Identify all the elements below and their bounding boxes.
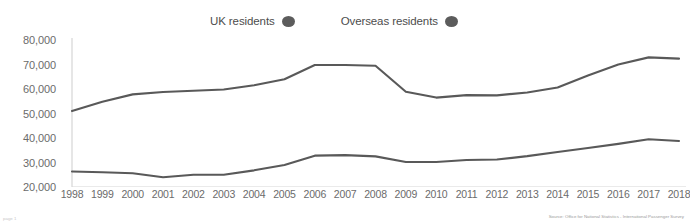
x-axis-tick-label: 2005	[273, 188, 296, 200]
x-axis-tick-label: 2014	[546, 188, 569, 200]
page-mark: page 1	[3, 216, 16, 221]
x-axis-tick-label: 2015	[577, 188, 600, 200]
x-axis-tick-label: 2016	[607, 188, 630, 200]
x-axis-tick-label: 2009	[395, 188, 418, 200]
legend-item-overseas-residents: Overseas residents	[341, 15, 458, 27]
x-axis-tick-label: 2008	[364, 188, 387, 200]
x-axis-tick-label: 2018	[668, 188, 690, 200]
legend-marker-circle-icon	[445, 16, 458, 27]
x-axis-tick-label: 2017	[637, 188, 660, 200]
x-axis-tick-label: 2010	[425, 188, 448, 200]
x-axis-tick-label: 2001	[152, 188, 175, 200]
legend-item-uk-residents: UK residents	[210, 15, 295, 27]
legend-marker-circle-icon	[282, 16, 295, 27]
x-axis-tick-label: 2011	[456, 188, 478, 200]
x-axis-tick-label: 1999	[91, 188, 114, 200]
x-axis-tick-label: 2012	[486, 188, 509, 200]
x-axis-tick-label: 2002	[182, 188, 205, 200]
x-axis-tick-label: 2000	[121, 188, 144, 200]
source-note: Source: Office for National Statistics -…	[549, 214, 684, 219]
plot-area	[0, 32, 690, 187]
x-axis-tick-label: 2006	[304, 188, 327, 200]
x-axis-tick-label: 2004	[243, 188, 266, 200]
x-axis-tick-label: 2003	[212, 188, 235, 200]
series-line-overseas-residents	[72, 139, 679, 177]
legend-label-uk-residents: UK residents	[210, 15, 275, 27]
chart-legend: UK residents Overseas residents	[210, 10, 458, 32]
x-axis-tick-label: 2013	[516, 188, 539, 200]
series-line-uk-residents	[72, 57, 679, 111]
chart-container: UK residents Overseas residents 80,000 7…	[0, 0, 690, 223]
legend-label-overseas-residents: Overseas residents	[341, 15, 438, 27]
line-chart-svg	[0, 32, 690, 187]
x-axis-tick-label: 1998	[61, 188, 84, 200]
x-axis-labels: 1998199920002001200220032004200520062007…	[0, 188, 690, 204]
x-axis-tick-label: 2007	[334, 188, 357, 200]
